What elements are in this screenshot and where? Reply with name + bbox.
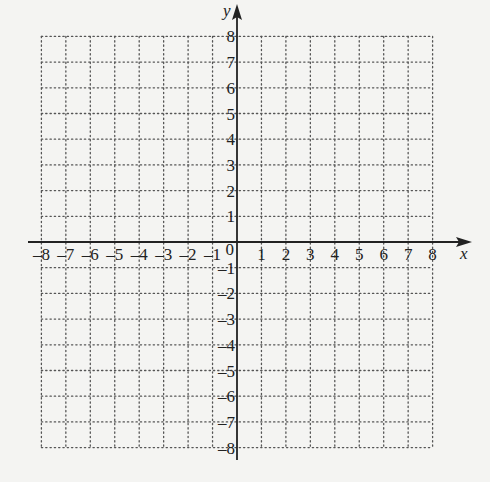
- y-tick-label: 3: [227, 156, 236, 175]
- y-tick-label: –3: [217, 310, 235, 329]
- x-tick-label: –8: [32, 245, 50, 264]
- y-tick-label: –4: [217, 336, 236, 355]
- x-tick-label: 5: [355, 245, 364, 264]
- y-tick-label: –2: [217, 284, 235, 303]
- x-axis-label: x: [459, 244, 468, 263]
- y-tick-label: 5: [227, 105, 236, 124]
- y-tick-label: –6: [217, 387, 235, 406]
- x-tick-label: –2: [179, 245, 197, 264]
- x-tick-label: 8: [428, 245, 437, 264]
- x-tick-label: 2: [282, 245, 291, 264]
- x-tick-label: 4: [331, 245, 340, 264]
- x-tick-label: –3: [154, 245, 172, 264]
- x-tick-label: –7: [56, 245, 75, 264]
- x-tick-label: –4: [130, 245, 149, 264]
- x-tick-label: –6: [81, 245, 99, 264]
- y-tick-label: 1: [227, 207, 236, 226]
- x-tick-label: 1: [257, 245, 266, 264]
- y-tick-label: 2: [227, 182, 236, 201]
- origin-label: 0: [226, 240, 235, 259]
- x-tick-label: 3: [306, 245, 315, 264]
- y-axis-label: y: [221, 1, 231, 20]
- x-tick-label: –5: [105, 245, 123, 264]
- y-tick-label: 4: [227, 130, 236, 149]
- y-tick-label: –1: [217, 259, 235, 278]
- x-tick-label: 7: [404, 245, 413, 264]
- x-tick-label: 6: [379, 245, 388, 264]
- y-tick-label: –8: [217, 439, 235, 458]
- y-tick-label: 8: [227, 27, 236, 46]
- y-tick-label: 7: [227, 53, 236, 72]
- coordinate-plane: –8–7–6–5–4–3–2–112345678 87654321–1–2–3–…: [0, 0, 490, 482]
- axes: [28, 4, 472, 460]
- y-tick-label: –7: [217, 413, 236, 432]
- y-tick-label: 6: [227, 79, 236, 98]
- coordinate-grid-svg: –8–7–6–5–4–3–2–112345678 87654321–1–2–3–…: [0, 0, 490, 482]
- y-tick-label: –5: [217, 362, 235, 381]
